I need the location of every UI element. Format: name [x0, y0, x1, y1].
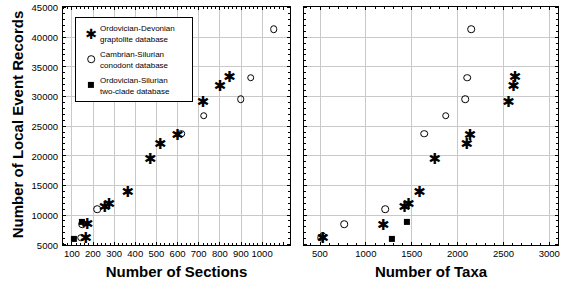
axis-tick — [241, 7, 242, 10]
axis-tick — [63, 90, 65, 91]
axis-tick — [304, 90, 306, 91]
axis-tick — [288, 232, 290, 233]
axis-tick — [156, 242, 157, 245]
axis-tick — [329, 7, 330, 9]
axis-tick — [556, 108, 558, 109]
axis-tick — [288, 43, 290, 44]
x-tick-label: 1000 — [355, 248, 376, 259]
axis-tick — [194, 7, 195, 9]
y-tick-label: 30000 — [18, 91, 58, 102]
axis-tick — [521, 7, 522, 9]
axis-tick — [556, 54, 558, 55]
axis-tick — [245, 7, 246, 9]
axis-tick — [257, 243, 258, 245]
axis-tick — [555, 7, 558, 8]
axis-tick — [101, 243, 102, 245]
axis-tick — [304, 226, 306, 227]
axis-tick — [304, 7, 307, 8]
axis-tick — [476, 243, 477, 245]
axis-tick — [207, 243, 208, 245]
axis-tick — [304, 149, 306, 150]
data-point-circle — [247, 74, 255, 82]
axis-tick — [63, 197, 65, 198]
data-point-star: ✱ — [509, 69, 522, 84]
axis-tick — [556, 137, 558, 138]
axis-tick — [63, 203, 65, 204]
axis-tick — [556, 13, 558, 14]
axis-tick — [288, 226, 290, 227]
axis-tick — [169, 7, 170, 9]
axis-tick — [164, 7, 165, 9]
axis-tick — [63, 220, 65, 221]
x-tick-label: 1500 — [401, 248, 422, 259]
axis-tick — [556, 232, 558, 233]
axis-tick — [556, 78, 558, 79]
y-tick-label: 35000 — [18, 61, 58, 72]
axis-tick — [71, 242, 72, 245]
axis-tick — [556, 132, 558, 133]
axis-tick — [80, 7, 81, 9]
axis-tick — [555, 155, 558, 156]
x-tick-label: 700 — [191, 248, 207, 259]
axis-tick — [245, 243, 246, 245]
axis-tick — [118, 7, 119, 9]
axis-tick — [304, 126, 307, 127]
axis-tick — [186, 243, 187, 245]
axis-tick — [338, 243, 339, 245]
axis-tick — [63, 137, 65, 138]
axis-tick — [288, 78, 290, 79]
x-tick-label: 800 — [212, 248, 228, 259]
data-point-circle — [381, 205, 389, 213]
axis-tick — [236, 7, 237, 9]
axis-tick — [262, 242, 263, 245]
axis-tick — [135, 242, 136, 245]
axis-tick — [287, 185, 290, 186]
axis-tick — [556, 191, 558, 192]
axis-tick — [288, 209, 290, 210]
axis-tick — [288, 220, 290, 221]
axis-tick — [232, 243, 233, 245]
axis-tick — [556, 226, 558, 227]
axis-tick — [288, 19, 290, 20]
axis-tick — [279, 7, 280, 9]
axis-tick — [555, 215, 558, 216]
legend-symbol-square-icon — [82, 75, 100, 97]
axis-tick — [63, 132, 65, 133]
axis-tick — [288, 161, 290, 162]
axis-tick — [190, 243, 191, 245]
x-tick-label: 3000 — [539, 248, 560, 259]
axis-tick — [556, 161, 558, 162]
axis-tick — [288, 114, 290, 115]
axis-tick — [287, 126, 290, 127]
axis-tick — [135, 7, 136, 10]
axis-tick — [143, 243, 144, 245]
axis-tick — [97, 243, 98, 245]
axis-tick — [105, 243, 106, 245]
axis-tick — [288, 191, 290, 192]
axis-tick — [556, 60, 558, 61]
data-point-circle — [93, 205, 101, 213]
data-point-star: ✱ — [377, 218, 390, 233]
axis-tick — [466, 243, 467, 245]
axis-tick — [203, 243, 204, 245]
axis-tick — [556, 149, 558, 150]
axis-tick — [93, 7, 94, 10]
axis-tick — [556, 49, 558, 50]
axis-tick — [114, 7, 115, 10]
axis-tick — [320, 7, 321, 10]
gridline-vertical — [320, 7, 321, 245]
axis-tick — [555, 66, 558, 67]
axis-tick — [347, 243, 348, 245]
data-point-star: ✱ — [223, 70, 236, 85]
axis-tick — [262, 7, 263, 10]
axis-tick — [439, 243, 440, 245]
plot-panel-right: ✱✱✱✱✱✱✱✱✱✱✱ — [303, 6, 559, 246]
axis-tick — [549, 7, 550, 10]
axis-tick — [228, 7, 229, 9]
axis-tick — [365, 7, 366, 10]
axis-tick — [556, 173, 558, 174]
gridline-vertical — [503, 7, 504, 245]
axis-tick — [304, 78, 306, 79]
data-point-circle — [178, 130, 186, 138]
axis-tick — [63, 114, 65, 115]
